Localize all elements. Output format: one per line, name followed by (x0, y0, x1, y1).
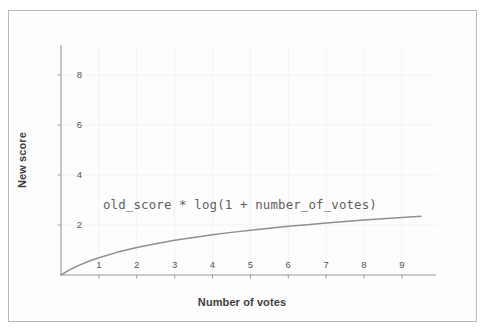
x-tick-label: 4 (205, 259, 221, 270)
x-tick-label: 6 (280, 259, 296, 270)
x-tick-label: 8 (356, 259, 372, 270)
x-tick-label: 5 (242, 259, 258, 270)
tick-marks (58, 75, 402, 279)
y-tick-label: 2 (66, 219, 82, 230)
y-tick-label: 6 (66, 119, 82, 130)
y-axis-title: New score (16, 100, 28, 220)
y-tick-label: 8 (66, 69, 82, 80)
x-axis-title: Number of votes (0, 296, 484, 308)
chart-plot-area (0, 0, 484, 332)
axis-spines (61, 45, 436, 275)
y-tick-label: 4 (66, 169, 82, 180)
x-tick-label: 7 (318, 259, 334, 270)
x-tick-label: 9 (394, 259, 410, 270)
x-tick-label: 1 (91, 259, 107, 270)
formula-annotation: old_score * log(1 + number_of_votes) (103, 197, 377, 212)
x-tick-label: 2 (129, 259, 145, 270)
x-tick-label: 3 (167, 259, 183, 270)
gridlines (61, 45, 436, 275)
